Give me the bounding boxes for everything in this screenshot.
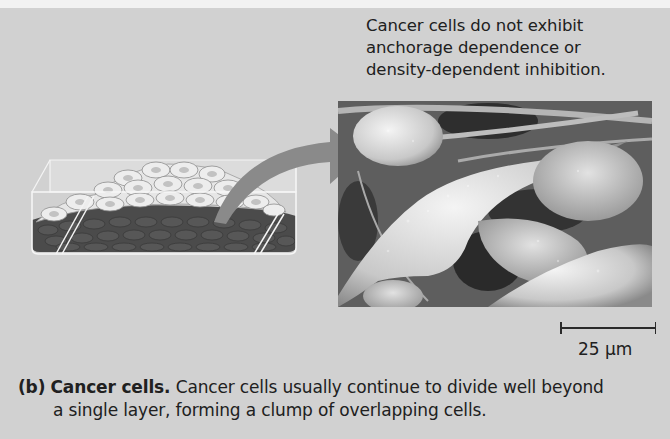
scale-bar-line bbox=[560, 327, 656, 329]
scale-bar-label: 25 µm bbox=[578, 339, 632, 359]
sem-micrograph bbox=[338, 101, 652, 307]
caption-title: Cancer cells. bbox=[51, 377, 171, 397]
figure-caption: (b) Cancer cells. Cancer cells usually c… bbox=[18, 376, 668, 422]
annotation-text: Cancer cells do not exhibit anchorage de… bbox=[366, 15, 606, 81]
top-margin-strip bbox=[0, 0, 670, 8]
annotation-line-2: anchorage dependence or bbox=[366, 37, 606, 59]
scale-bar-tick-right bbox=[655, 322, 657, 334]
caption-text-line-2: a single layer, forming a clump of overl… bbox=[18, 399, 668, 422]
scale-bar bbox=[560, 322, 656, 334]
caption-panel-label: (b) bbox=[18, 377, 45, 397]
annotation-line-1: Cancer cells do not exhibit bbox=[366, 15, 606, 37]
scale-bar-tick-left bbox=[560, 322, 562, 334]
caption-text-line-1: Cancer cells usually continue to divide … bbox=[176, 377, 604, 397]
micrograph-image-icon bbox=[338, 101, 652, 307]
annotation-line-3: density-dependent inhibition. bbox=[366, 59, 606, 81]
